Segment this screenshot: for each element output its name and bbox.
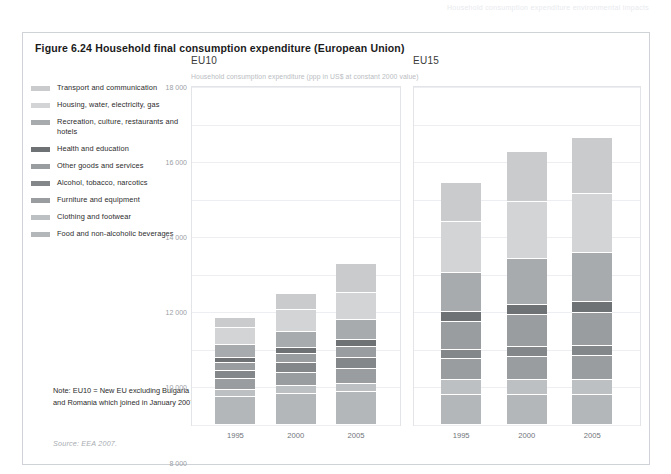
bar-segment: [336, 369, 376, 384]
legend-item-label: Furniture and equipment: [57, 195, 140, 205]
bar-segment: [507, 202, 547, 258]
legend-item: Clothing and footwear: [31, 212, 191, 222]
legend-swatch-icon: [31, 86, 50, 91]
bar-segment: [572, 194, 612, 253]
bar-segment: [276, 363, 316, 373]
y-axis-tick-label: 18 000: [166, 84, 187, 91]
bar-segment: [336, 358, 376, 369]
legend-item-label: Health and education: [57, 144, 129, 154]
panel-title-eu15: EU15: [413, 55, 439, 66]
bar-segment: [441, 183, 481, 222]
legend-item: Health and education: [31, 144, 191, 154]
bar-segment: [215, 379, 255, 390]
legend-item: Alcohol, tobacco, narcotics: [31, 178, 191, 188]
legend-item: Furniture and equipment: [31, 195, 191, 205]
legend-swatch-icon: [31, 232, 50, 237]
bar-segment: [276, 373, 316, 386]
bar-segment: [276, 332, 316, 348]
y-axis-tick-label: 10 000: [166, 384, 187, 391]
bar-segment: [572, 380, 612, 395]
bar-segment: [441, 312, 481, 321]
bar-segment: [336, 320, 376, 340]
x-axis-tick-label: 2000: [287, 431, 304, 440]
figure-container: Figure 6.24 Household final consumption …: [22, 32, 650, 465]
bar-segment: [507, 152, 547, 203]
bar-segment: [336, 347, 376, 358]
stacked-bar: [336, 264, 376, 425]
bar-segment: [276, 386, 316, 394]
legend-swatch-icon: [31, 215, 50, 220]
y-axis-tick-label: 16 000: [166, 159, 187, 166]
gridline: [414, 425, 640, 426]
y-axis-tick-label: 12 000: [166, 309, 187, 316]
gridline: [414, 125, 640, 126]
bar-segment: [215, 371, 255, 379]
stacked-bar: [441, 183, 481, 425]
bar-segment: [215, 318, 255, 328]
stacked-bar: [215, 318, 255, 425]
bar-segment: [336, 384, 376, 392]
legend-item-label: Housing, water, electricity, gas: [57, 100, 159, 110]
legend-item-label: Transport and communication: [57, 83, 157, 93]
legend-swatch-icon: [31, 147, 50, 152]
panel-subtitle-eu10: Household consumption expenditure (ppp i…: [191, 73, 419, 80]
page-running-header: Household consumption expenditure enviro…: [447, 4, 649, 11]
bar-segment: [507, 395, 547, 425]
bar-segment: [441, 222, 481, 273]
bar-segment: [572, 346, 612, 356]
bar-segment: [441, 380, 481, 395]
bar-segment: [336, 293, 376, 320]
bar-segment: [507, 305, 547, 315]
gridline: 14 000: [192, 162, 400, 163]
gridline: 10 000: [192, 237, 400, 238]
bar-segment: [572, 302, 612, 313]
y-axis-tick-label: 14 000: [166, 234, 187, 241]
bar-segment: [441, 359, 481, 380]
x-axis-tick-label: 1995: [453, 431, 470, 440]
gridline: 12 000: [192, 200, 400, 201]
bar-segment: [507, 380, 547, 395]
legend-item: Recreation, culture, restaurants and hot…: [31, 117, 191, 136]
legend-item: Housing, water, electricity, gas: [31, 100, 191, 110]
bar-segment: [336, 392, 376, 425]
bar-segment: [507, 347, 547, 357]
bar-segment: [572, 395, 612, 425]
bar-segment: [276, 394, 316, 425]
bar-segment: [441, 273, 481, 312]
stacked-bar: [507, 152, 547, 425]
bar-segment: [276, 354, 316, 363]
bar-segment: [276, 310, 316, 332]
bar-segment: [441, 350, 481, 359]
panel-title-eu10: EU10: [191, 55, 217, 66]
legend-swatch-icon: [31, 181, 50, 186]
x-axis-tick-label: 2005: [348, 431, 365, 440]
bar-segment: [507, 357, 547, 380]
plot-area-eu15: 199520002005: [413, 86, 641, 426]
bar-segment: [215, 345, 255, 358]
gridline: 0: [192, 425, 400, 426]
legend-item-label: Alcohol, tobacco, narcotics: [57, 178, 148, 188]
bar-segment: [215, 363, 255, 371]
legend-item-label: Recreation, culture, restaurants and hot…: [57, 117, 191, 136]
gridline: 16 000: [192, 125, 400, 126]
stacked-bar: [276, 294, 316, 425]
bar-segment: [572, 356, 612, 379]
bar-segment: [276, 294, 316, 311]
bar-segment: [507, 315, 547, 347]
gridline: 18 000: [192, 87, 400, 88]
legend-item-label: Other goods and services: [57, 161, 144, 171]
legend-item-label: Food and non-alcoholic beverages: [57, 229, 174, 239]
bar-segment: [336, 264, 376, 293]
gridline: [414, 87, 640, 88]
stacked-bar: [572, 138, 612, 425]
bar-segment: [441, 395, 481, 425]
legend-swatch-icon: [31, 120, 50, 125]
bar-segment: [572, 138, 612, 194]
bar-segment: [572, 253, 612, 302]
bar-segment: [215, 328, 255, 345]
legend-item-label: Clothing and footwear: [57, 212, 131, 222]
legend-swatch-icon: [31, 198, 50, 203]
x-axis-tick-label: 2000: [518, 431, 535, 440]
y-axis-tick-label: 8 000: [169, 459, 187, 466]
x-axis-tick-label: 2005: [584, 431, 601, 440]
